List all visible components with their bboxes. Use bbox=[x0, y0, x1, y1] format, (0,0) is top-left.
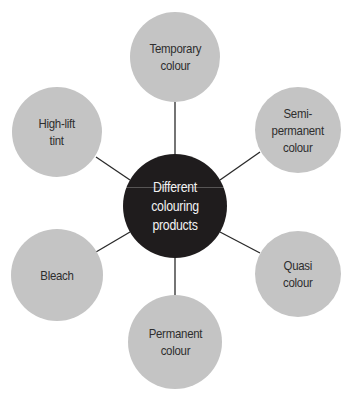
node-bleach: Bleach bbox=[11, 229, 103, 321]
node-label: Permanent colour bbox=[148, 325, 202, 359]
node-label: Temporary colour bbox=[149, 40, 201, 74]
hub-different-colouring-products: Different colouring products bbox=[123, 154, 227, 258]
connector-quasi bbox=[220, 232, 260, 253]
node-quasi-colour: Quasi colour bbox=[255, 231, 341, 317]
node-label: Semi- permanent colour bbox=[272, 105, 324, 156]
node-label: High-lift tint bbox=[39, 115, 75, 149]
node-label: Quasi colour bbox=[283, 257, 313, 291]
node-temporary-colour: Temporary colour bbox=[130, 12, 220, 102]
connector-semi-permanent bbox=[220, 152, 260, 180]
connector-bleach bbox=[96, 232, 130, 252]
hub-divider-line bbox=[126, 187, 224, 188]
node-high-lift-tint: High-lift tint bbox=[12, 87, 102, 177]
node-semi-permanent-colour: Semi- permanent colour bbox=[255, 87, 341, 173]
node-permanent-colour: Permanent colour bbox=[128, 295, 222, 389]
connector-high-lift bbox=[96, 157, 130, 180]
node-label: Bleach bbox=[40, 267, 73, 284]
